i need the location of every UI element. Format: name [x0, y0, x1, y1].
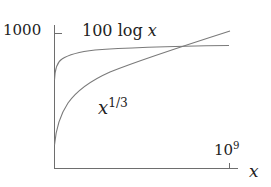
- curve-cube-root-x: [55, 31, 231, 145]
- label-cube-root-exp: 1/3: [108, 96, 128, 110]
- label-100-log-var: x: [148, 21, 157, 40]
- label-cube-root-x: x1/3: [98, 99, 128, 117]
- curve-100-log-x: [55, 46, 230, 81]
- x-tick-base: 10: [214, 141, 233, 159]
- y-tick-label-1000: 1000: [3, 23, 41, 38]
- x-tick-label-1e9: 109: [214, 143, 240, 158]
- x-tick-exp: 9: [233, 140, 239, 151]
- label-100-log-x: 100 log x: [82, 23, 157, 39]
- x-axis-label: x: [249, 163, 259, 180]
- label-cube-root-base: x: [98, 97, 108, 118]
- label-100-log-prefix: 100 log: [82, 21, 148, 40]
